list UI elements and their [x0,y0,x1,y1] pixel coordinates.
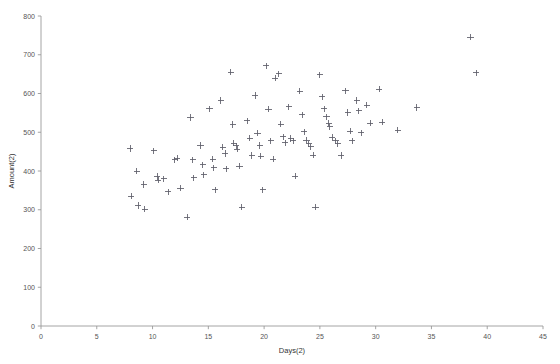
data-point [265,106,271,112]
x-axis-tick-label: 25 [316,333,324,340]
x-axis-tick-label: 20 [260,333,268,340]
y-axis-tick-label: 800 [23,13,35,20]
data-point [211,165,217,171]
data-point [349,138,355,144]
data-point [161,176,167,182]
x-axis: 051015202530354045 [39,326,547,340]
data-point [358,130,364,136]
data-point [239,204,245,210]
data-point [127,145,133,151]
data-point [327,124,333,130]
data-point [312,204,318,210]
data-point [329,134,335,140]
data-point [206,106,212,112]
y-axis-tick-label: 0 [31,323,35,330]
data-point [268,138,274,144]
data-point [270,156,276,162]
scatter-plot-figure: 0100200300400500600700800 05101520253035… [0,0,560,364]
data-point [128,193,134,199]
data-point [354,97,360,103]
data-point [197,142,203,148]
data-point [301,129,307,135]
data-point [260,187,266,193]
data-point [467,34,473,40]
data-point [338,152,344,158]
axis-titles: Days(2)Amount(2) [7,153,306,355]
data-point [276,71,282,77]
data-point [154,173,160,179]
x-axis-tick-label: 35 [428,333,436,340]
x-axis-tick-label: 10 [149,333,157,340]
data-point [278,121,284,127]
data-point [321,106,327,112]
data-point [272,75,278,81]
data-point [200,162,206,168]
data-point [201,172,207,178]
data-point [286,104,292,110]
y-axis-tick-label: 600 [23,90,35,97]
y-axis-tick-label: 700 [23,51,35,58]
data-point [257,142,263,148]
data-point [210,156,216,162]
data-point [236,163,242,169]
chart-canvas: 0100200300400500600700800 05101520253035… [0,0,560,364]
x-axis-tick-label: 15 [204,333,212,340]
data-point [310,152,316,158]
data-point [280,134,286,140]
data-point [323,114,329,120]
data-point [134,168,140,174]
data-point [165,189,171,195]
y-axis-tick-label: 100 [23,284,35,291]
data-point [317,72,323,78]
data-point [230,121,236,127]
data-point [135,202,141,208]
data-point [141,181,147,187]
data-point [249,152,255,158]
data-point [292,173,298,179]
data-point [228,69,234,75]
data-point [347,128,353,134]
data-point [319,94,325,100]
data-point [282,140,288,146]
data-point [297,88,303,94]
x-axis-title: Days(2) [279,346,306,355]
y-axis: 0100200300400500600700800 [23,13,41,330]
data-point [244,118,250,124]
y-axis-tick-label: 200 [23,245,35,252]
y-axis-tick-label: 300 [23,206,35,213]
data-point [263,63,269,69]
data-point [395,127,401,133]
data-point [155,177,161,183]
x-axis-tick-label: 5 [95,333,99,340]
data-point [191,175,197,181]
data-point [220,144,226,150]
data-point [151,148,157,154]
data-point [212,187,218,193]
data-point [326,120,332,126]
data-point [222,150,228,156]
data-point [376,86,382,92]
data-point [414,104,420,110]
data-point [342,88,348,94]
data-point [379,119,385,125]
data-point [218,97,224,103]
data-point [367,120,373,126]
data-point [252,92,258,98]
data-point [364,102,370,108]
data-point [177,185,183,191]
data-point [356,108,362,114]
x-axis-tick-label: 45 [539,333,547,340]
data-point [223,166,229,172]
data-point [142,206,148,212]
data-point [187,114,193,120]
data-point [345,109,351,115]
data-point-layer [127,34,479,220]
x-axis-tick-label: 40 [483,333,491,340]
data-point [258,153,264,159]
x-axis-tick-label: 30 [372,333,380,340]
y-axis-tick-label: 400 [23,168,35,175]
data-point [473,70,479,76]
data-point [184,214,190,220]
data-point [247,135,253,141]
y-axis-title: Amount(2) [7,153,16,189]
